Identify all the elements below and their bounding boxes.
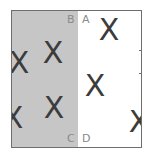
label-c: C <box>67 133 75 144</box>
x-mark: X <box>44 93 65 123</box>
x-mark: X <box>11 103 23 133</box>
x-mark: X <box>43 38 64 68</box>
x-mark: X <box>11 48 29 78</box>
x-mark: X <box>129 107 142 137</box>
label-b: B <box>67 14 75 25</box>
label-d: D <box>82 133 90 144</box>
diagram-panel: B A C D X X X X X X X <box>11 10 142 148</box>
label-a: A <box>82 14 90 25</box>
x-mark: X <box>85 71 106 101</box>
border-tick <box>139 50 142 51</box>
x-mark: X <box>99 15 120 45</box>
border-tick <box>139 73 142 74</box>
